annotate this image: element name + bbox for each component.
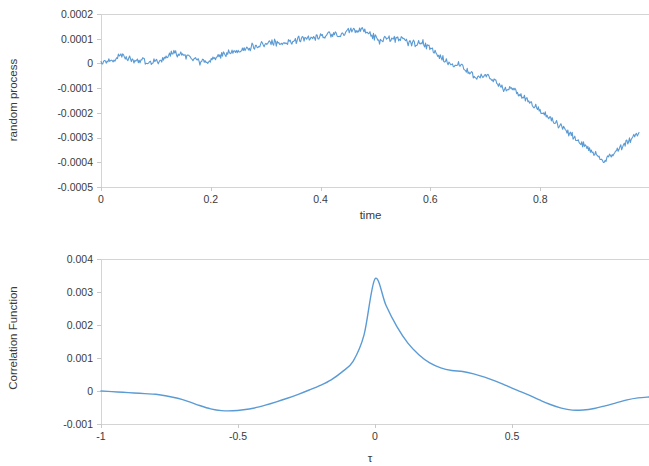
x-tick-label: 0.8	[533, 193, 548, 205]
y-tick-label: 0.0001	[61, 33, 93, 45]
y-tick-label: 0	[87, 57, 93, 69]
y-tick-label: -0.0005	[57, 181, 93, 193]
correlation-function-chart: 0.0040.0030.0020.0010-0.001-1-0.500.5τCo…	[0, 233, 649, 466]
y-axis-title: Correlation Function	[7, 286, 19, 390]
x-axis-title: τ	[368, 452, 373, 464]
y-tick-label: 0.002	[67, 319, 93, 331]
random-process-panel: 0.00020.00010-0.0001-0.0002-0.0003-0.000…	[0, 0, 649, 233]
x-tick-label: 0.6	[423, 193, 438, 205]
y-tick-label: 0.003	[67, 286, 93, 298]
series-line-random-process	[101, 28, 639, 163]
y-tick-label: 0	[87, 385, 93, 397]
x-tick-label: 0.5	[505, 430, 520, 442]
x-axis-ticks: -1-0.500.5	[96, 424, 519, 442]
x-axis-ticks: 00.20.40.60.8	[98, 187, 548, 205]
series-line-correlation-function	[101, 278, 649, 411]
x-tick-label: 0.4	[313, 193, 328, 205]
correlation-function-panel: 0.0040.0030.0020.0010-0.001-1-0.500.5τCo…	[0, 233, 649, 466]
y-tick-label: -0.0002	[57, 107, 93, 119]
x-tick-label: 0.2	[203, 193, 218, 205]
y-tick-label: -0.001	[63, 418, 93, 430]
x-tick-label: 0	[98, 193, 104, 205]
y-tick-label: 0.004	[67, 253, 93, 265]
x-axis-title: time	[360, 209, 382, 221]
y-axis-ticks: 0.00020.00010-0.0001-0.0002-0.0003-0.000…	[57, 8, 101, 193]
x-tick-label: 0	[372, 430, 378, 442]
plot-frame	[102, 14, 649, 188]
y-axis-ticks: 0.0040.0030.0020.0010-0.001	[63, 253, 101, 430]
x-tick-label: -0.5	[229, 430, 247, 442]
y-tick-label: 0.001	[67, 352, 93, 364]
y-tick-label: -0.0001	[57, 82, 93, 94]
random-process-chart: 0.00020.00010-0.0001-0.0002-0.0003-0.000…	[0, 0, 649, 233]
x-tick-label: -1	[96, 430, 105, 442]
y-axis-title: random process	[7, 59, 19, 142]
y-tick-label: -0.0004	[57, 156, 93, 168]
y-tick-label: -0.0003	[57, 131, 93, 143]
y-tick-label: 0.0002	[61, 8, 93, 20]
figure-container: 0.00020.00010-0.0001-0.0002-0.0003-0.000…	[0, 0, 649, 466]
